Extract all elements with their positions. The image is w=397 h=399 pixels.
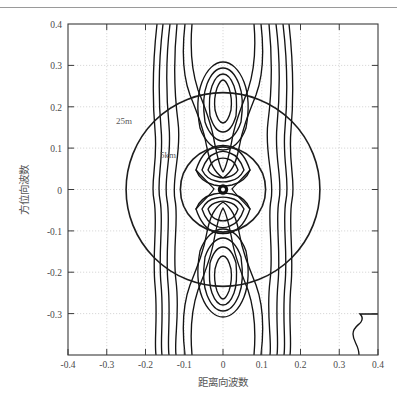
y-tick-labels: 0.4 0.3 0.2 0.1 0 -0.1 -0.2 -0.3 (47, 20, 62, 320)
x-tick-8: 0.4 (372, 360, 384, 370)
y-tick-1: 0.3 (50, 61, 62, 71)
x-tick-5: 0.1 (256, 360, 268, 370)
y-tick-2: 0.2 (50, 103, 62, 113)
x-tick-0: -0.4 (60, 360, 75, 370)
y-tick-0: 0.4 (50, 20, 62, 30)
x-tick-2: -0.2 (138, 360, 153, 370)
x-tick-1: -0.3 (99, 360, 114, 370)
corner-artifact (353, 314, 378, 355)
x-tick-3: -0.1 (177, 360, 192, 370)
y-axis-title: 方位向波数 (18, 164, 30, 215)
y-tick-3: 0.1 (50, 144, 62, 154)
x-tick-labels: -0.4 -0.3 -0.2 -0.1 0 0.1 0.2 0.3 0.4 (60, 360, 384, 370)
x-tick-6: 0.2 (295, 360, 307, 370)
origin-marker (218, 184, 228, 194)
y-tick-4: 0 (57, 186, 62, 196)
y-tick-6: -0.2 (47, 268, 62, 278)
inner-circle-label: 5km (160, 150, 176, 160)
x-tick-4: 0 (221, 360, 226, 370)
y-tick-7: -0.3 (47, 310, 62, 320)
contour-plot-svg: 25m 5km -0.4 -0.3 -0 (0, 0, 397, 399)
y-tick-5: -0.1 (47, 227, 62, 237)
x-tick-7: 0.3 (333, 360, 345, 370)
outer-circle-label: 25m (116, 116, 132, 126)
contour-figure: 25m 5km -0.4 -0.3 -0 (0, 0, 397, 399)
x-axis-title: 距离向波数 (198, 376, 249, 388)
